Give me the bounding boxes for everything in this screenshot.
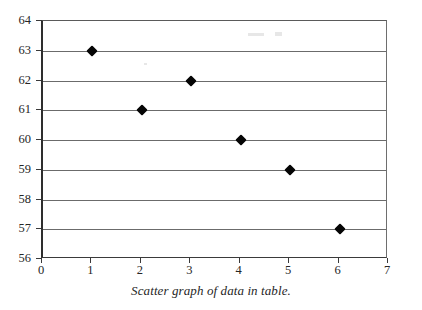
x-tick-label-3: 3 [177, 264, 201, 277]
x-tick-label-6: 6 [326, 264, 350, 277]
gridline-y-61 [43, 110, 386, 111]
y-tick-58 [36, 199, 41, 200]
gridline-y-59 [43, 170, 386, 171]
scan-artifact [248, 33, 264, 36]
y-tick-label-58: 58 [3, 192, 31, 205]
y-tick-62 [36, 80, 41, 81]
scatter-chart-figure: 565758596061626364 01234567 Scatter grap… [0, 0, 422, 310]
y-tick-60 [36, 139, 41, 140]
data-point [235, 134, 246, 145]
data-point [186, 75, 197, 86]
plot-area [41, 20, 387, 258]
x-tick-label-7: 7 [375, 264, 399, 277]
y-tick-label-56: 56 [3, 252, 31, 265]
scan-artifact [144, 63, 147, 65]
data-point [87, 45, 98, 56]
gridline-y-60 [43, 140, 386, 141]
y-tick-label-61: 61 [3, 103, 31, 116]
x-tick-label-0: 0 [29, 264, 53, 277]
y-tick-label-64: 64 [3, 14, 31, 27]
data-point [284, 164, 295, 175]
y-tick-59 [36, 169, 41, 170]
scan-artifact [275, 32, 282, 36]
x-tick-label-2: 2 [128, 264, 152, 277]
y-tick-label-59: 59 [3, 163, 31, 176]
x-tick-label-1: 1 [78, 264, 102, 277]
y-tick-64 [36, 20, 41, 21]
y-tick-label-57: 57 [3, 222, 31, 235]
y-tick-63 [36, 50, 41, 51]
figure-caption: Scatter graph of data in table. [0, 283, 422, 298]
y-tick-57 [36, 228, 41, 229]
gridline-y-62 [43, 81, 386, 82]
y-tick-label-63: 63 [3, 44, 31, 57]
x-tick-label-4: 4 [227, 264, 251, 277]
y-tick-label-62: 62 [3, 73, 31, 86]
data-point [136, 105, 147, 116]
gridline-y-58 [43, 200, 386, 201]
y-tick-label-60: 60 [3, 133, 31, 146]
y-tick-61 [36, 109, 41, 110]
data-point [334, 224, 345, 235]
x-tick-label-5: 5 [276, 264, 300, 277]
